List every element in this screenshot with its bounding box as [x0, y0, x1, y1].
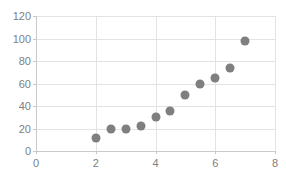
data-point — [136, 122, 145, 131]
y-tickmark — [33, 61, 36, 62]
x-tickmark — [275, 151, 276, 154]
data-point — [181, 90, 190, 99]
data-point — [106, 124, 115, 133]
y-tickmark — [33, 106, 36, 107]
x-tick-label: 6 — [200, 158, 230, 169]
data-point — [121, 124, 130, 133]
data-point — [196, 79, 205, 88]
gridline-vertical — [275, 16, 276, 151]
y-tick-label: 0 — [0, 146, 31, 157]
y-tickmark — [33, 129, 36, 130]
x-tickmark — [96, 151, 97, 154]
x-tickmark — [36, 151, 37, 154]
x-tickmark — [156, 151, 157, 154]
y-tick-label: 80 — [0, 56, 31, 67]
x-tick-label: 0 — [21, 158, 51, 169]
gridline-vertical — [215, 16, 216, 151]
y-tick-label: 120 — [0, 11, 31, 22]
scatter-chart: 020406080100120 02468 — [0, 0, 286, 177]
data-point — [241, 36, 250, 45]
y-axis-line — [36, 16, 37, 152]
data-point — [226, 63, 235, 72]
y-tickmark — [33, 84, 36, 85]
y-tick-label: 100 — [0, 34, 31, 45]
y-tickmark — [33, 39, 36, 40]
gridline-vertical — [96, 16, 97, 151]
y-tick-label: 20 — [0, 124, 31, 135]
gridline-vertical — [156, 16, 157, 151]
x-tickmark — [215, 151, 216, 154]
data-point — [166, 106, 175, 115]
data-point — [211, 73, 220, 82]
y-tick-label: 60 — [0, 79, 31, 90]
data-point — [91, 133, 100, 142]
x-tick-label: 2 — [81, 158, 111, 169]
x-tick-label: 8 — [260, 158, 286, 169]
y-tick-label: 40 — [0, 101, 31, 112]
y-tickmark — [33, 16, 36, 17]
plot-area — [36, 16, 275, 151]
data-point — [151, 113, 160, 122]
x-tick-label: 4 — [141, 158, 171, 169]
